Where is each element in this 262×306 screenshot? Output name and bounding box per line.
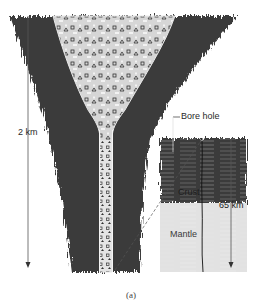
crust-label: Crust — [178, 188, 200, 197]
mantle-label: Mantle — [170, 230, 197, 239]
kimberlite-pipe-diagram: 2 km Bore hole Crust 65 km Mantle (a) — [0, 0, 262, 306]
bore-hole-label: Bore hole — [181, 112, 220, 121]
right-depth-label: 65 km — [219, 201, 244, 210]
diagram-graphic — [0, 0, 262, 306]
left-depth-label: 2 km — [18, 128, 38, 137]
figure-caption: (a) — [0, 290, 262, 300]
